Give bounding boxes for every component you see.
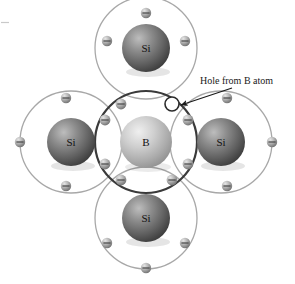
electron [116,175,127,186]
atom-si-right: Si [197,118,245,171]
atom-label-boron: B [142,136,149,148]
electron [100,115,111,126]
atom-si-left: Si [47,118,95,171]
electron [267,137,277,147]
atom-si-bottom: Si [122,194,170,247]
atom-label-si-left: Si [66,136,75,148]
electron [180,36,190,46]
electron [141,263,151,273]
hole-marker [165,97,179,111]
atom-cores: Si Si B Si S [47,24,245,247]
atom-si-top: Si [122,24,170,77]
atom-label-si-bottom: Si [141,212,150,224]
electron [15,137,25,147]
electron [222,181,232,191]
atomic-bond-diagram: Si Si B Si S [0,0,295,284]
electron [102,238,112,248]
electron [167,175,178,186]
electron [183,115,194,126]
electron [100,159,111,170]
electron [183,159,194,170]
annotation-label: Hole from B atom [200,75,273,86]
electron [222,93,232,103]
figure-canvas: Si Si B Si S [0,0,295,284]
electron [102,36,112,46]
electron [180,238,190,248]
electron [116,99,127,110]
atom-boron: B [120,116,172,172]
electron [141,8,151,18]
electron [61,181,71,191]
electron [61,93,71,103]
atom-label-si-right: Si [216,136,225,148]
atom-label-si-top: Si [141,42,150,54]
